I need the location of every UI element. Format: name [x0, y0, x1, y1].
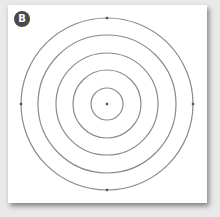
- anchor-point-right: [192, 103, 194, 105]
- anchor-point-top: [106, 17, 108, 19]
- anchor-point-left: [20, 103, 22, 105]
- anchor-point-bottom: [106, 189, 108, 191]
- anchor-point-center: [106, 103, 108, 105]
- concentric-circles-diagram: [0, 0, 220, 217]
